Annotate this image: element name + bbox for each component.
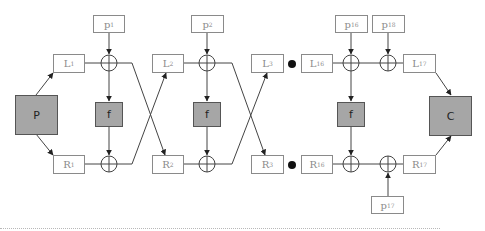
label-R16: R16 <box>301 155 333 174</box>
f-function-round-2: f <box>193 102 221 127</box>
key-p16: p16 <box>335 15 368 33</box>
bottom-divider <box>0 228 440 229</box>
label-R17: R17 <box>403 155 436 174</box>
ciphertext-block: C <box>429 96 472 136</box>
label-R3: R3 <box>251 155 284 174</box>
feistel-diagram <box>0 0 485 231</box>
label-L17: L17 <box>403 54 436 73</box>
plaintext-block: P <box>15 95 58 135</box>
label-L3: L3 <box>251 54 284 73</box>
key-p17: p17 <box>371 196 404 214</box>
key-p1: p1 <box>93 15 125 33</box>
label-L16: L16 <box>301 54 333 73</box>
ellipsis-dot-bottom <box>288 161 296 169</box>
key-p2: p2 <box>191 15 224 33</box>
label-L1: L1 <box>53 54 85 73</box>
label-R1: R1 <box>53 155 85 174</box>
ellipsis-dot-top <box>288 60 296 68</box>
key-p18: p18 <box>372 15 405 33</box>
label-L2: L2 <box>152 54 184 73</box>
f-function-round-16: f <box>337 102 365 127</box>
label-R2: R2 <box>152 155 184 174</box>
f-function-round-1: f <box>95 102 123 127</box>
